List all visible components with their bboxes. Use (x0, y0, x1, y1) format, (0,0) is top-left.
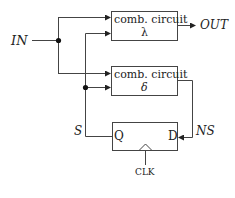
clock-label: CLK (135, 168, 155, 177)
delta-box-title: comb. circuit (114, 69, 187, 80)
in-junction-dot (56, 38, 61, 43)
input-label: IN (11, 34, 28, 47)
state-junction-dot (83, 85, 88, 90)
lambda-box-title: comb. circuit (114, 14, 187, 25)
state-machine-diagram: IN OUT S NS comb. circuit λ comb. circui… (0, 0, 235, 198)
lambda-symbol: λ (141, 27, 148, 38)
output-label: OUT (200, 19, 228, 31)
state-label: S (74, 125, 82, 137)
next-state-label: NS (196, 125, 215, 137)
flipflop-d-label: D (168, 130, 178, 142)
flipflop-q-label: Q (114, 130, 124, 142)
delta-symbol: δ (141, 82, 148, 93)
